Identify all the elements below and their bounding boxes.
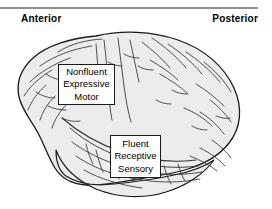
callout-anterior-line-2: Expressive bbox=[63, 78, 109, 91]
callout-anterior-language-area: Nonfluent Expressive Motor bbox=[58, 64, 115, 105]
callout-posterior-language-area: Fluent Receptive Sensory bbox=[110, 135, 161, 178]
callout-anterior-line-3: Motor bbox=[74, 91, 98, 104]
callout-posterior-line-3: Sensory bbox=[118, 163, 153, 176]
callout-posterior-line-1: Fluent bbox=[122, 138, 148, 151]
callout-posterior-line-2: Receptive bbox=[114, 150, 156, 163]
callout-anterior-line-1: Nonfluent bbox=[66, 66, 107, 79]
brain-figure: Anterior Posterior bbox=[0, 0, 272, 209]
